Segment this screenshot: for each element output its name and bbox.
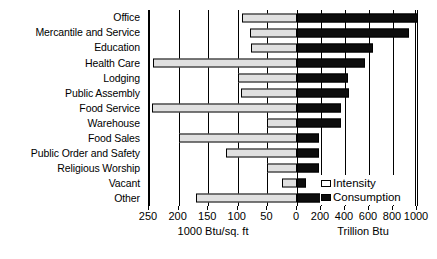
bar-row	[149, 10, 415, 25]
bar-row	[149, 85, 415, 100]
gridline	[417, 10, 418, 206]
bar-intensity	[226, 149, 297, 158]
bar-consumption	[297, 134, 319, 143]
bar-intensity	[242, 13, 297, 22]
bar-row	[149, 25, 415, 40]
bar-consumption	[297, 179, 306, 188]
chart-legend: IntensityConsumption	[320, 175, 403, 205]
category-label: Vacant	[0, 176, 144, 191]
bar-consumption	[297, 194, 323, 203]
category-label: Religious Worship	[0, 161, 144, 176]
bar-row	[149, 116, 415, 131]
left-axis-ticklabel: 150	[198, 210, 216, 223]
bar-intensity	[250, 28, 297, 37]
bar-row	[149, 40, 415, 55]
category-label: Public Assembly	[0, 85, 144, 100]
category-label: Health Care	[0, 55, 144, 70]
legend-item: Consumption	[321, 190, 401, 204]
bar-row	[149, 100, 415, 115]
bar-intensity	[238, 73, 297, 82]
left-axis-ticklabel: 100	[228, 210, 246, 223]
bar-consumption	[297, 164, 319, 173]
bar-row	[149, 70, 415, 85]
category-label: Lodging	[0, 70, 144, 85]
right-axis-title: Trillion Btu	[337, 225, 389, 238]
legend-label: Consumption	[333, 191, 401, 204]
right-axis-ticklabel: 1000	[404, 210, 428, 223]
category-label: Warehouse	[0, 116, 144, 131]
value-axis-ticklabels: 2502001501005002004006008001000	[0, 210, 437, 224]
bar-row	[149, 146, 415, 161]
bar-consumption	[297, 73, 348, 82]
bar-consumption	[297, 58, 365, 67]
category-label: Office	[0, 10, 144, 25]
bar-intensity	[267, 119, 297, 128]
bar-row	[149, 131, 415, 146]
bar-intensity	[267, 164, 297, 173]
legend-label: Intensity	[333, 177, 376, 190]
bidirectional-bar-chart: OfficeMercantile and ServiceEducationHea…	[0, 0, 437, 259]
category-axis-labels: OfficeMercantile and ServiceEducationHea…	[0, 10, 144, 206]
bar-consumption	[297, 119, 341, 128]
bar-intensity	[179, 134, 297, 143]
bar-intensity	[153, 58, 297, 67]
right-axis-ticklabel: 800	[383, 210, 401, 223]
bar-consumption	[297, 88, 349, 97]
legend-swatch-icon	[321, 180, 331, 187]
left-axis-title: 1000 Btu/sq. ft	[178, 225, 249, 238]
bar-consumption	[297, 149, 319, 158]
left-axis-ticklabel: 200	[168, 210, 186, 223]
bar-consumption	[297, 43, 373, 52]
bar-row	[149, 161, 415, 176]
category-label: Food Sales	[0, 131, 144, 146]
bar-intensity	[282, 179, 297, 188]
bar-row	[149, 55, 415, 70]
category-label: Education	[0, 40, 144, 55]
category-label: Other	[0, 191, 144, 206]
category-label: Public Order and Safety	[0, 146, 144, 161]
legend-item: Intensity	[321, 176, 401, 190]
category-label: Food Service	[0, 100, 144, 115]
bar-intensity	[251, 43, 297, 52]
left-axis-ticklabel: 0	[293, 210, 299, 223]
category-label: Mercantile and Service	[0, 25, 144, 40]
bar-consumption	[297, 28, 409, 37]
bar-consumption	[297, 104, 341, 113]
legend-swatch-icon	[321, 194, 331, 201]
right-axis-ticklabel: 400	[335, 210, 353, 223]
left-axis-ticklabel: 50	[260, 210, 272, 223]
bar-consumption	[297, 13, 418, 22]
bar-intensity	[152, 104, 297, 113]
bar-intensity	[241, 88, 297, 97]
right-axis-ticklabel: 600	[359, 210, 377, 223]
bar-intensity	[196, 194, 297, 203]
left-axis-ticklabel: 250	[139, 210, 157, 223]
right-axis-ticklabel: 200	[311, 210, 329, 223]
